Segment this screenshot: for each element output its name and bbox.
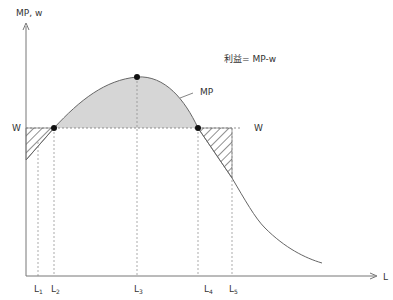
profit-area <box>54 77 198 128</box>
tick-l2: L2 <box>51 284 60 295</box>
mp-leader-line <box>180 93 193 98</box>
y-axis-label: MP, w <box>16 8 42 18</box>
profit-annotation: 利益= MP-w <box>224 53 276 64</box>
x-axis-label: L <box>383 272 388 282</box>
point-l4 <box>195 125 201 131</box>
mp-curve-label: MP <box>200 87 214 97</box>
tick-l1: L1 <box>34 284 43 295</box>
mp-wage-diagram: MP, w L 利益= MP-w MP W W L1 L2 L3 L4 L5 <box>0 0 393 300</box>
point-peak <box>134 74 140 80</box>
tick-l3: L3 <box>134 284 143 295</box>
wage-label-left: W <box>12 123 21 133</box>
point-l2 <box>51 125 57 131</box>
wage-label-right: W <box>254 123 263 133</box>
tick-l5: L5 <box>229 284 238 295</box>
tick-l4: L4 <box>204 284 213 295</box>
